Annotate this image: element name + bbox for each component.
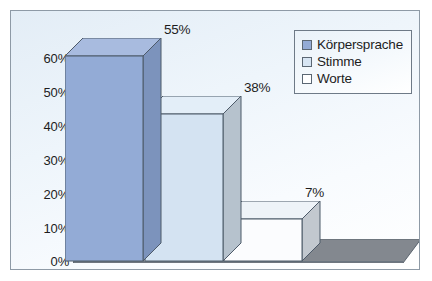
data-label-stimme: 38% (244, 80, 270, 95)
legend-label-stimme: Stimme (317, 54, 362, 69)
legend-swatch-icon-worte (302, 74, 312, 84)
data-label-koerpersprache: 55% (164, 22, 190, 37)
y-axis-label-30: 30% (23, 154, 69, 167)
y-axis-label-20: 20% (23, 188, 69, 201)
y-axis-label-0: 0% (23, 255, 69, 268)
legend-label-koerpersprache: Körpersprache (317, 37, 403, 52)
chart-legend: Körpersprache Stimme Worte (294, 30, 412, 94)
y-axis-labels: 60% 50% 40% 30% 20% 10% 0% (11, 11, 69, 270)
chart-plot-frame: 60% 50% 40% 30% 20% 10% 0% (10, 10, 420, 270)
y-axis-label-60: 60% (23, 52, 69, 65)
y-axis-label-10: 10% (23, 222, 69, 235)
legend-swatch-icon-koerpersprache (302, 40, 312, 50)
legend-label-worte: Worte (317, 71, 352, 86)
legend-item-stimme[interactable]: Stimme (302, 53, 403, 70)
legend-item-koerpersprache[interactable]: Körpersprache (302, 36, 403, 53)
legend-swatch-icon-stimme (302, 57, 312, 67)
data-label-worte: 7% (305, 185, 324, 200)
y-axis-label-40: 40% (23, 120, 69, 133)
chart-root: 60% 50% 40% 30% 20% 10% 0% (0, 0, 432, 281)
y-axis-label-50: 50% (23, 86, 69, 99)
legend-item-worte[interactable]: Worte (302, 70, 403, 87)
bar-koerpersprache[interactable] (65, 38, 185, 263)
